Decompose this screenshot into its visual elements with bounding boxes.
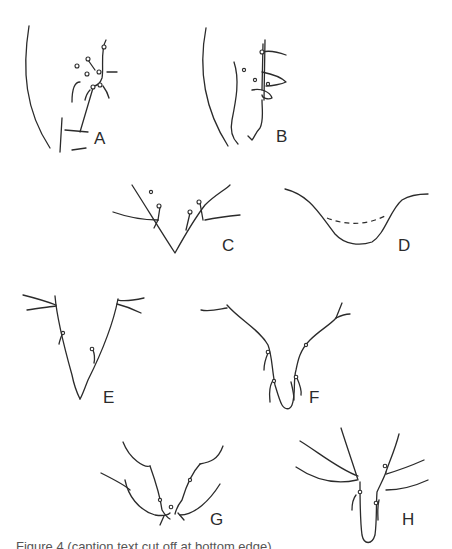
panel-label-f: F <box>309 388 319 408</box>
panel-f-drawing <box>201 303 350 409</box>
panel-label-b: B <box>276 127 287 147</box>
panel-e-drawing <box>23 295 144 399</box>
figure-caption: Figure 4 (caption text cut off at bottom… <box>16 538 446 549</box>
panel-label-c: C <box>222 236 234 256</box>
panel-label-d: D <box>398 236 410 256</box>
panel-c-drawing <box>113 185 240 253</box>
line-drawings <box>0 0 452 549</box>
panel-b-drawing <box>203 28 286 146</box>
panel-label-e: E <box>103 388 114 408</box>
panel-g-drawing <box>101 442 223 525</box>
panel-label-a: A <box>94 129 105 149</box>
figure-plate: A B C D E F G H Figure 4 (caption text c… <box>0 0 452 549</box>
panel-label-g: G <box>210 510 223 530</box>
panel-label-h: H <box>402 510 414 530</box>
